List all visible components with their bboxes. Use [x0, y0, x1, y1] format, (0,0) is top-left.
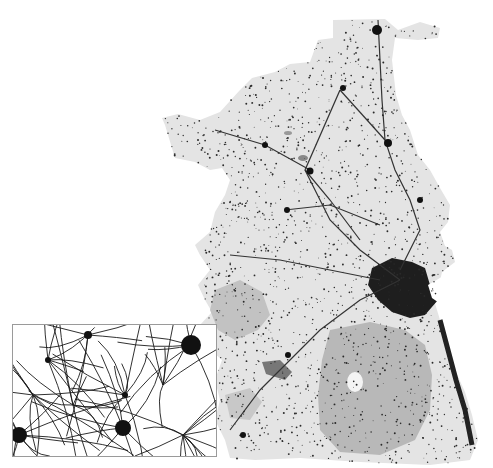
settlement-dot: [439, 234, 441, 236]
inset-town: [45, 357, 51, 363]
settlement-dot: [393, 139, 394, 140]
settlement-dot: [304, 342, 305, 343]
settlement-dot: [229, 225, 230, 226]
settlement-dot: [266, 136, 268, 138]
settlement-dot: [302, 277, 303, 278]
settlement-dot: [354, 53, 356, 55]
settlement-dot: [235, 184, 237, 186]
settlement-dot: [291, 431, 293, 433]
settlement-dot: [324, 253, 326, 255]
settlement-dot: [424, 329, 425, 330]
settlement-dot: [411, 434, 413, 436]
settlement-dot: [451, 366, 452, 367]
settlement-dot: [324, 78, 325, 79]
settlement-dot: [306, 432, 307, 433]
settlement-dot: [218, 312, 219, 313]
settlement-dot: [362, 22, 364, 24]
settlement-dot: [464, 415, 466, 417]
settlement-dot: [222, 315, 223, 316]
settlement-dot: [275, 387, 276, 388]
settlement-dot: [347, 201, 348, 202]
settlement-dot: [365, 166, 366, 167]
settlement-dot: [377, 307, 379, 309]
settlement-dot: [238, 204, 240, 206]
settlement-dot: [403, 277, 405, 279]
settlement-dot: [396, 274, 398, 276]
settlement-dot: [321, 154, 322, 155]
settlement-dot: [231, 284, 232, 285]
settlement-dot: [379, 167, 381, 169]
settlement-dot: [379, 373, 381, 375]
settlement-dot: [313, 434, 314, 435]
settlement-dot: [262, 400, 263, 401]
settlement-dot: [443, 263, 444, 264]
settlement-dot: [254, 216, 255, 217]
settlement-dot: [429, 421, 431, 423]
settlement-dot: [386, 363, 388, 365]
settlement-dot: [302, 139, 304, 141]
settlement-dot: [292, 343, 293, 344]
settlement-dot: [298, 81, 299, 82]
settlement-dot: [459, 457, 460, 458]
settlement-dot: [324, 326, 326, 328]
settlement-dot: [305, 407, 307, 409]
settlement-dot: [307, 182, 308, 183]
settlement-dot: [322, 411, 323, 412]
settlement-dot: [316, 84, 318, 86]
settlement-dot: [361, 105, 362, 106]
settlement-dot: [359, 420, 360, 421]
settlement-dot: [404, 435, 405, 436]
settlement-dot: [455, 445, 457, 447]
settlement-dot: [320, 301, 321, 302]
settlement-dot: [331, 84, 332, 85]
settlement-dot: [255, 203, 256, 204]
settlement-dot: [386, 67, 387, 68]
settlement-dot: [328, 291, 329, 292]
settlement-dot: [310, 182, 311, 183]
settlement-dot: [365, 437, 366, 438]
settlement-dot: [247, 321, 249, 323]
settlement-dot: [351, 195, 353, 197]
settlement-dot: [432, 429, 433, 430]
settlement-dot: [219, 155, 220, 156]
settlement-dot: [393, 109, 394, 110]
settlement-dot: [219, 143, 220, 144]
settlement-dot: [259, 434, 261, 436]
settlement-dot: [332, 357, 334, 359]
settlement-dot: [312, 307, 313, 308]
settlement-dot: [416, 243, 417, 244]
settlement-dot: [352, 25, 353, 26]
settlement-dot: [356, 384, 358, 386]
settlement-dot: [282, 441, 283, 442]
settlement-dot: [420, 267, 421, 268]
settlement-dot: [244, 138, 245, 139]
settlement-dot: [338, 172, 340, 174]
settlement-dot: [310, 108, 311, 109]
settlement-dot: [427, 385, 428, 386]
settlement-dot: [385, 26, 386, 27]
settlement-dot: [346, 146, 347, 147]
settlement-dot: [241, 203, 243, 205]
settlement-dot: [205, 127, 206, 128]
settlement-dot: [352, 263, 354, 265]
settlement-dot: [380, 278, 381, 279]
settlement-dot: [272, 267, 273, 268]
settlement-dot: [242, 316, 243, 317]
settlement-dot: [318, 206, 319, 207]
settlement-dot: [206, 278, 207, 279]
settlement-dot: [246, 158, 247, 159]
settlement-dot: [396, 110, 397, 111]
settlement-dot: [410, 410, 411, 411]
settlement-dot: [338, 126, 339, 127]
settlement-dot: [244, 218, 245, 219]
settlement-dot: [246, 360, 248, 362]
settlement-dot: [397, 180, 399, 182]
settlement-dot: [389, 455, 390, 456]
settlement-dot: [371, 21, 372, 22]
settlement-dot: [330, 76, 332, 78]
settlement-dot: [262, 139, 263, 140]
settlement-dot: [236, 221, 237, 222]
inset-road: [13, 325, 33, 395]
settlement-dot: [259, 422, 261, 424]
settlement-dot: [319, 423, 320, 424]
